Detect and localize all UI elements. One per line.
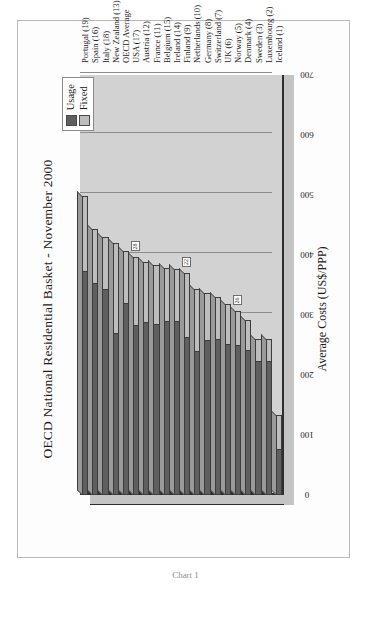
bar-segment-usage — [92, 284, 98, 495]
bar-segment-usage — [245, 351, 251, 495]
category-label: Netherlands (10) — [192, 5, 202, 63]
bar-stack — [102, 237, 108, 495]
bar-segment-fixed — [153, 265, 159, 325]
bar-row — [163, 75, 169, 495]
legend-label: Fixed — [79, 86, 90, 110]
bar-row — [214, 75, 220, 495]
bar-segment-fixed — [132, 257, 138, 325]
bar-stack — [112, 243, 118, 495]
chart-legend: UsageFixed — [62, 77, 94, 131]
bar-stack — [194, 289, 200, 495]
bar-segment-fixed — [214, 297, 220, 340]
bar-segment-fixed — [102, 237, 108, 290]
bar-row — [183, 75, 189, 495]
bar-segment-fixed — [92, 229, 98, 284]
bar-stack — [81, 196, 87, 495]
bar-segment-fixed — [234, 311, 240, 346]
bar-row — [204, 75, 210, 495]
rotated-chart-container: OECD National Residential Basket - Novem… — [36, 51, 336, 567]
category-label: Belgium (15) — [161, 17, 171, 63]
bar-segment-usage — [163, 322, 169, 495]
gridline-700 — [80, 72, 272, 73]
bar-segment-usage — [265, 362, 271, 495]
bar-segment-fixed — [143, 262, 149, 323]
chart-title: OECD National Residential Basket - Novem… — [40, 51, 56, 567]
bar-row — [92, 75, 98, 495]
bar-segment-fixed — [194, 289, 200, 353]
category-label: Switzerland (7) — [212, 10, 222, 63]
category-label: USA (17) — [131, 30, 141, 63]
bar-stack — [183, 273, 189, 495]
category-label: Luxembourg (2) — [263, 7, 273, 63]
bar-segment-usage — [81, 272, 87, 495]
category-label: Ireland (14) — [171, 22, 181, 63]
bar-segment-usage — [194, 352, 200, 495]
category-label: UK (6) — [222, 38, 232, 63]
bar-segment-usage — [173, 322, 179, 495]
figure-page: OECD National Residential Basket - Novem… — [0, 0, 371, 618]
legend-item-usage: Usage — [66, 84, 77, 126]
bar-row — [224, 75, 230, 495]
bar-segment-fixed — [275, 415, 281, 450]
legend-item-fixed: Fixed — [79, 84, 90, 126]
bar-stack — [143, 262, 149, 495]
data-callout: 28 — [131, 241, 140, 251]
bar-stack — [132, 257, 138, 495]
bar-segment-usage — [224, 345, 230, 495]
bar-segment-fixed — [245, 320, 251, 351]
bar-row — [265, 75, 271, 495]
bar-segment-fixed — [81, 196, 87, 272]
bar-segment-fixed — [255, 339, 261, 362]
data-callout: 22 — [182, 257, 191, 267]
bar-stack — [204, 293, 210, 495]
bar-segment-fixed — [204, 293, 210, 341]
category-label: Portugal (19) — [80, 17, 90, 63]
legend-swatch-icon — [66, 115, 77, 126]
bar-segment-usage — [214, 340, 220, 495]
bar-row — [81, 75, 87, 495]
bar-segment-fixed — [122, 251, 128, 304]
value-axis-title: Average Costs (US$/PPP) — [315, 51, 330, 567]
bar-stack — [92, 229, 98, 495]
category-label: OECD Average — [120, 9, 130, 63]
bar-row — [275, 75, 281, 495]
category-label: Sweden (3) — [253, 24, 263, 63]
bar-stack — [275, 415, 281, 495]
bar-stack — [163, 268, 169, 495]
bar-stack — [234, 311, 240, 495]
category-label: Denmark (4) — [243, 19, 253, 63]
bar-segment-usage — [255, 362, 261, 495]
bar-segment-usage — [102, 290, 108, 495]
category-label: Germany (8) — [202, 19, 212, 63]
legend-label: Usage — [66, 84, 77, 110]
bar-segment-fixed — [224, 304, 230, 345]
bar-stack — [153, 265, 159, 495]
bar-series-group — [80, 75, 284, 495]
category-label: Norway (5) — [233, 23, 243, 63]
bar-stack — [224, 304, 230, 495]
category-label: Austria (12) — [141, 21, 151, 63]
bar-segment-usage — [112, 334, 118, 495]
bar-segment-usage — [234, 346, 240, 495]
bar-row — [112, 75, 118, 495]
bar-stack — [214, 297, 220, 495]
bar-stack — [173, 269, 179, 495]
bar-top-face — [76, 191, 81, 495]
category-label: Finland (9) — [182, 25, 192, 63]
bar-row — [143, 75, 149, 495]
category-label: New Zealand (13) — [110, 0, 120, 63]
bar-segment-fixed — [173, 269, 179, 322]
bar-row — [173, 75, 179, 495]
category-label: France (11) — [151, 23, 161, 63]
bar-segment-fixed — [112, 243, 118, 334]
bar-segment-usage — [153, 325, 159, 495]
bar-segment-usage — [122, 304, 128, 495]
bar-row — [132, 75, 138, 495]
data-callout: 26 — [233, 295, 242, 305]
category-label: Iceland (1) — [273, 26, 283, 63]
figure-caption: Chart 1 — [0, 570, 371, 580]
bar-segment-fixed — [183, 273, 189, 338]
bar-row — [153, 75, 159, 495]
bar-row — [122, 75, 128, 495]
bar-segment-usage — [275, 450, 281, 495]
